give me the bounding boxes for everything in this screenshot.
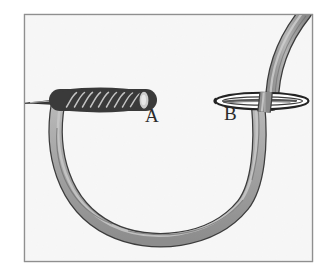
thread-over-eye (262, 92, 266, 112)
illustration-border (25, 15, 313, 262)
stitch-diagram-svg (0, 0, 333, 274)
coiled-thread-wraps (60, 89, 149, 112)
label-b: B (224, 104, 237, 123)
label-a: A (145, 106, 159, 125)
illustration-figure: A B (0, 0, 333, 274)
